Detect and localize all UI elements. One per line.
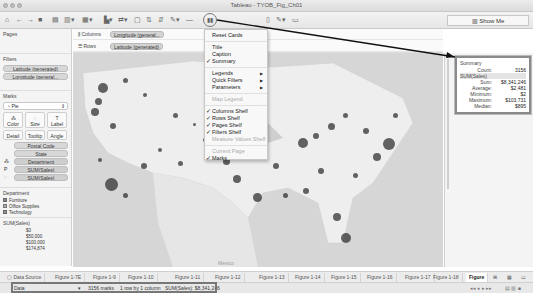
fixed-axes-icon[interactable]: ▯ bbox=[266, 15, 270, 25]
menu-item-columns-shelf[interactable]: ✓Columns Shelf bbox=[205, 108, 267, 115]
sheet-tab[interactable]: Figure 1-18 bbox=[430, 273, 463, 282]
clear-icon[interactable]: ▙▾ bbox=[104, 15, 113, 25]
tooltip-icon[interactable]: ✎▾ bbox=[276, 15, 286, 25]
home-icon[interactable]: ⌂ bbox=[5, 15, 9, 25]
undo-icon[interactable]: ← bbox=[16, 15, 23, 25]
summary-title: Summary bbox=[460, 60, 526, 66]
sheet-tab[interactable]: Figure 1-13 bbox=[256, 273, 289, 282]
menu-item-rows-shelf[interactable]: ✓Rows Shelf bbox=[205, 115, 267, 122]
swatch-icon bbox=[3, 210, 7, 214]
menu-item-parameters[interactable]: Parameters▶ bbox=[205, 84, 267, 91]
sales-legend-title: SUM(Sales) bbox=[0, 218, 71, 228]
menu-item-quick-filters[interactable]: Quick Filters▶ bbox=[205, 77, 267, 84]
menu-item-pages-shelf[interactable]: ✓Pages Shelf bbox=[205, 122, 267, 129]
menu-item-summary[interactable]: ✓Summary bbox=[205, 58, 267, 65]
show-hide-cards-menu: Reset Cards Title Caption ✓Summary Legen… bbox=[204, 29, 268, 160]
menu-item-current-page: Current Page bbox=[205, 148, 267, 155]
new-sheet-icon[interactable]: ▥▾ bbox=[64, 15, 75, 25]
select-arrows-icon: ⇕ bbox=[61, 103, 65, 109]
pages-shelf[interactable] bbox=[0, 39, 71, 54]
menu-item-marks[interactable]: ✓Marks bbox=[205, 155, 267, 162]
menu-separator bbox=[205, 93, 267, 94]
new-datasource-icon[interactable]: ▤ bbox=[52, 15, 59, 25]
window-titlebar: Tableau - TYOB_Fig_Ch01 bbox=[0, 0, 533, 12]
sheet-tab[interactable]: Figure 1-7E bbox=[52, 273, 85, 282]
menu-separator bbox=[205, 145, 267, 146]
sheet-tabs: ▢ Data Source Figure 1-7E Figure 1-9 Fig… bbox=[0, 271, 533, 282]
mark-type-select[interactable]: ◔ Pie ⇕ bbox=[3, 102, 68, 110]
detail-button[interactable]: Detail bbox=[3, 130, 23, 140]
status-highlight-box bbox=[11, 282, 217, 293]
redo-icon[interactable]: → bbox=[27, 15, 34, 25]
svg-text:Mexico: Mexico bbox=[218, 260, 234, 266]
show-me-button[interactable]: ▥ Show Me bbox=[447, 15, 529, 26]
check-icon: ✓ bbox=[206, 58, 211, 65]
filter-pill[interactable]: Latitude (generated) bbox=[3, 65, 68, 72]
mark-field-pill[interactable]: Postal Code bbox=[14, 142, 68, 149]
columns-pill[interactable]: Longitude (general... bbox=[110, 31, 164, 38]
check-icon: ✓ bbox=[206, 155, 211, 162]
mark-field-pill[interactable]: SUM(Sales) bbox=[14, 166, 68, 173]
angle-button[interactable]: Angle bbox=[47, 130, 67, 140]
new-story-icon[interactable]: ▭ bbox=[518, 273, 529, 282]
size-button[interactable]: ◌Size bbox=[25, 112, 45, 128]
menu-item-reset-cards[interactable]: Reset Cards bbox=[205, 32, 267, 39]
tooltip-button[interactable]: Tooltip bbox=[25, 130, 45, 140]
sort-asc-icon[interactable]: ⇅ bbox=[146, 15, 152, 25]
group-icon[interactable]: ▢ bbox=[134, 15, 141, 25]
tab-navigation-icon[interactable]: ◂◂ ◂ ▸ ▸▸ bbox=[470, 285, 492, 291]
rows-label: ☰ Rows bbox=[78, 43, 96, 49]
show-cards-icon[interactable]: ▮▮ bbox=[203, 13, 217, 27]
summary-row: Median:$895 bbox=[460, 103, 526, 109]
check-icon: ✓ bbox=[206, 122, 211, 129]
summary-card: Summary Count:3156 SUM(Sales) Sum:$8,341… bbox=[455, 56, 531, 114]
submenu-arrow-icon: ▶ bbox=[260, 70, 263, 77]
sheet-tab-active[interactable]: Figure bbox=[466, 273, 488, 282]
fit-icon[interactable]: — bbox=[186, 15, 193, 25]
sheet-tab[interactable]: Figure 1-12 bbox=[212, 273, 245, 282]
submenu-arrow-icon: ▶ bbox=[260, 84, 263, 91]
sheet-tab[interactable]: Figure 1-11 bbox=[172, 273, 204, 282]
view-mode-icon[interactable]: ▤ ▥ ■ bbox=[505, 285, 521, 291]
sheet-tab[interactable]: Figure 1-10 bbox=[125, 273, 158, 282]
columns-label: ⫼ Columns bbox=[78, 31, 101, 38]
menu-item-map-legend: Map Legend bbox=[205, 96, 267, 103]
new-worksheet-icon[interactable]: ⊞ bbox=[490, 273, 500, 282]
sheet-tab[interactable]: Figure 1-16 bbox=[364, 273, 397, 282]
duplicate-icon[interactable]: ▦▾ bbox=[82, 15, 93, 25]
menu-item-filters-shelf[interactable]: ✓Filters Shelf bbox=[205, 129, 267, 136]
menu-separator bbox=[205, 105, 267, 106]
filter-pill[interactable]: Longitude (general... bbox=[3, 73, 68, 80]
new-dashboard-icon[interactable]: ▦ bbox=[504, 273, 515, 282]
color-button[interactable]: ⁂Color bbox=[3, 112, 23, 128]
marks-card-title: Marks bbox=[0, 91, 71, 101]
mark-field-pill[interactable]: SUM(Sales) bbox=[14, 174, 68, 181]
highlight-icon[interactable]: ✎▾ bbox=[170, 15, 180, 25]
check-icon: ✓ bbox=[206, 129, 211, 136]
menu-item-title[interactable]: Title bbox=[205, 44, 267, 51]
label-button[interactable]: TLabel bbox=[47, 112, 67, 128]
rows-pill[interactable]: Latitude (generated) bbox=[110, 43, 163, 50]
swatch-icon bbox=[3, 204, 7, 208]
mark-field-pill[interactable]: State bbox=[14, 150, 68, 157]
swap-icon[interactable]: ⇄▾ bbox=[118, 15, 128, 25]
check-icon: ✓ bbox=[206, 115, 211, 122]
menu-separator bbox=[205, 67, 267, 68]
sort-desc-icon[interactable]: ⇵ bbox=[158, 15, 164, 25]
left-panel: Pages Filters Latitude (generated) Longi… bbox=[0, 29, 72, 266]
mark-field-pill[interactable]: Department bbox=[14, 158, 68, 165]
menu-item-legends[interactable]: Legends▶ bbox=[205, 70, 267, 77]
check-icon: ✓ bbox=[206, 108, 211, 115]
sheet-tab[interactable]: Figure 1-9 bbox=[90, 273, 120, 282]
sheet-tab[interactable]: Figure 1-15 bbox=[328, 273, 361, 282]
pages-card-title: Pages bbox=[0, 29, 71, 39]
scrollbar[interactable] bbox=[447, 59, 449, 189]
menu-item-caption[interactable]: Caption bbox=[205, 51, 267, 58]
tab-data-source[interactable]: ▢ Data Source bbox=[4, 273, 45, 282]
swatch-icon bbox=[3, 198, 7, 202]
presentation-icon[interactable]: ▭ bbox=[292, 15, 299, 25]
submenu-arrow-icon: ▶ bbox=[260, 77, 263, 84]
sheet-tab[interactable]: Figure 1-14 bbox=[292, 273, 325, 282]
color-icon: ⁂ bbox=[4, 158, 9, 164]
save-icon[interactable]: ■ bbox=[38, 15, 42, 25]
